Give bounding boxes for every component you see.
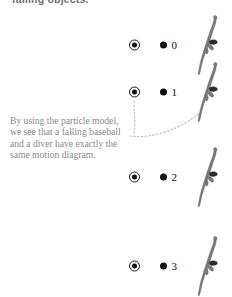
baseball-row-1 [129,87,140,98]
baseball-row-0 [129,40,140,51]
particle-index-label: 2 [171,172,177,183]
particle-dot-icon [160,262,167,269]
caption-line: same motion diagram. [10,149,144,160]
caption-line: By using the particle model, [10,115,144,126]
diver-figure-icon [196,235,224,297]
particle-index-label: 0 [171,40,177,51]
figure-header-text: falling objects. [12,0,212,5]
diver-row-2 [196,146,224,208]
baseball-row-2 [129,172,140,183]
particle-row-2: 2 [160,172,177,183]
particle-dot-icon [160,41,167,48]
baseball-row-3 [129,261,140,272]
baseball-icon [129,40,140,51]
baseball-icon [129,87,140,98]
baseball-icon [129,261,140,272]
diver-row-1 [196,61,224,123]
diver-row-3 [196,235,224,297]
particle-index-label: 1 [171,87,177,98]
caption-line: we see that a falling baseball [10,126,144,137]
particle-dot-icon [160,88,167,95]
diver-figure-icon [196,146,224,208]
particle-index-label: 3 [171,261,177,272]
figure-header: falling objects. [12,0,212,7]
particle-row-1: 1 [160,87,177,98]
caption-line: and a diver have exactly the [10,138,144,149]
particle-dot-icon [160,173,167,180]
particle-row-3: 3 [160,261,177,272]
particle-row-0: 0 [160,40,177,51]
figure-caption: By using the particle model, we see that… [10,115,144,161]
baseball-icon [129,172,140,183]
diver-figure-icon [196,61,224,123]
